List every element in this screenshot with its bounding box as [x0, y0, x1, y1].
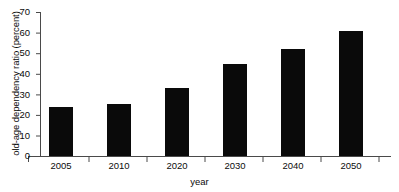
y-tick-marks — [36, 13, 41, 157]
bar-2050 — [339, 31, 363, 156]
x-tick-label-2040: 2040 — [268, 160, 318, 171]
y-tick-label: 20 — [8, 110, 30, 120]
y-axis-title: old-age dependency ratio (percent) — [10, 0, 21, 169]
x-axis-title: year — [0, 176, 399, 187]
y-tick-label: 70 — [8, 7, 30, 17]
x-tick-label-2010: 2010 — [94, 160, 144, 171]
x-tick-label-2005: 2005 — [36, 160, 86, 171]
x-tick-label-2030: 2030 — [210, 160, 260, 171]
bar-chart: old-age dependency ratio (percent) year … — [0, 0, 399, 192]
y-tick-label: 30 — [8, 90, 30, 100]
y-tick-label: 60 — [8, 28, 30, 38]
y-tick-label: 40 — [8, 69, 30, 79]
x-tick-label-2020: 2020 — [152, 160, 202, 171]
bar-2040 — [281, 49, 305, 156]
y-tick-label: 10 — [8, 131, 30, 141]
y-tick-label: 50 — [8, 48, 30, 58]
bar-2010 — [107, 104, 131, 156]
x-tick-label-2050: 2050 — [326, 160, 376, 171]
bar-2005 — [49, 107, 73, 156]
bar-2030 — [223, 64, 247, 156]
bar-2020 — [165, 88, 189, 156]
y-tick-label: 0 — [8, 151, 30, 161]
